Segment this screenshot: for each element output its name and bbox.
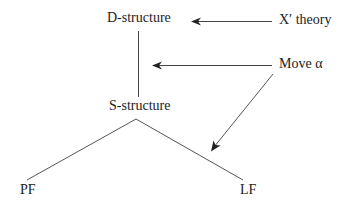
node-d-structure: D-structure xyxy=(107,11,171,25)
node-move-alpha: Move α xyxy=(279,57,323,71)
s-to-pf-line xyxy=(27,119,136,180)
move-alpha-arrow-to-lf xyxy=(214,74,273,147)
node-pf: PF xyxy=(20,183,36,197)
node-x-bar-theory: X′ theory xyxy=(279,13,331,27)
diagram-lines xyxy=(0,0,343,206)
s-to-lf-line xyxy=(136,119,243,180)
move-alpha-diagonal-arrowhead-icon xyxy=(211,141,221,152)
node-s-structure: S-structure xyxy=(109,99,170,113)
node-lf: LF xyxy=(240,183,256,197)
